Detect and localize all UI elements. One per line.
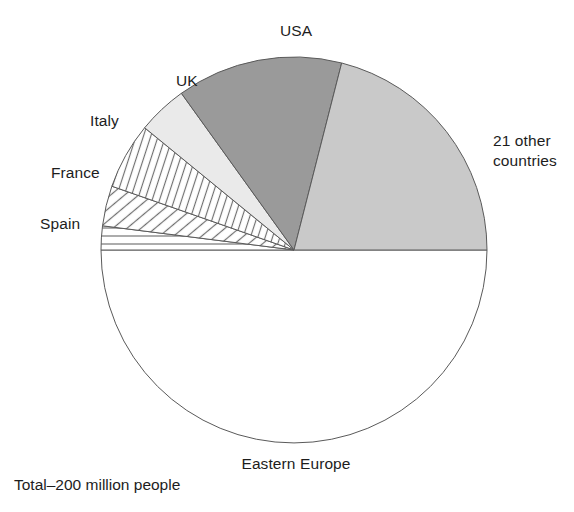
chart-canvas: USA UK Italy France Spain 21 other count… xyxy=(0,0,574,512)
slice-label-usa: USA xyxy=(280,22,312,40)
slice-label-uk: UK xyxy=(176,72,198,90)
pie-slice-eastern-europe xyxy=(101,250,487,443)
slice-label-france: France xyxy=(51,164,100,182)
slice-label-other-line1: 21 other xyxy=(493,132,551,150)
slice-label-spain: Spain xyxy=(40,215,80,233)
slice-label-other-line2: countries xyxy=(493,152,557,170)
slice-label-eastern-europe: Eastern Europe xyxy=(241,455,350,473)
pie-chart xyxy=(0,0,574,512)
slice-label-italy: Italy xyxy=(90,112,119,130)
chart-caption: Total–200 million people xyxy=(14,476,180,494)
